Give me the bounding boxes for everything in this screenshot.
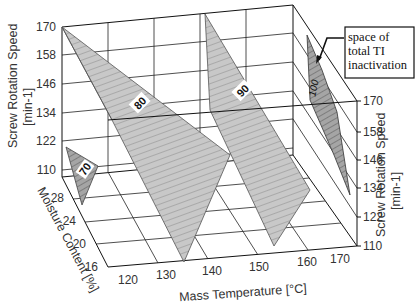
x-tick: 130 [156,268,176,282]
y-axis-label: Moisture Content [%] [34,185,101,295]
z-axis-unit-left: [min-1] [21,88,35,126]
3d-surface-chart: 70 80 90 100 170 158 146 134 122 110 Scr… [0,0,417,306]
z-tick: 122 [36,134,56,148]
z-axis-right: 170 158 146 134 122 110 Screw Rotation S… [357,94,403,253]
x-tick: 160 [297,255,317,269]
annotation-line1: space of [348,30,390,44]
z-axis-label-right: Screw Rotation Speed [374,113,388,237]
surface-100: 100 [306,35,350,195]
z-axis-left: 170 158 146 134 122 110 Screw Rotation S… [6,20,56,177]
y-axis: 28 24 20 16 Moisture Content [%] [34,185,101,295]
z-tick: 110 [37,163,56,177]
z-axis-label-left: Screw Rotation Speed [6,24,20,148]
annotation-line2: total TI [348,44,385,58]
z-tick: 170 [36,20,56,34]
z-tick: 146 [36,77,56,91]
x-axis-label: Mass Temperature [°C] [179,281,307,304]
surface-90: 90 [205,14,310,246]
x-tick: 170 [330,252,350,266]
x-tick: 120 [118,273,138,287]
x-tick: 140 [202,264,222,278]
x-axis: 120 130 140 150 160 170 Mass Temperature… [118,252,350,304]
z-tick-right: 170 [363,94,383,108]
annotation-line3: inactivation [348,58,408,72]
x-tick: 150 [249,260,269,274]
z-tick-right: 110 [363,239,382,253]
annotation-callout: space of total TI inactivation [316,27,414,78]
z-tick: 158 [36,48,56,62]
z-axis-unit-right: [min-1] [389,172,403,210]
z-tick: 134 [36,106,56,120]
